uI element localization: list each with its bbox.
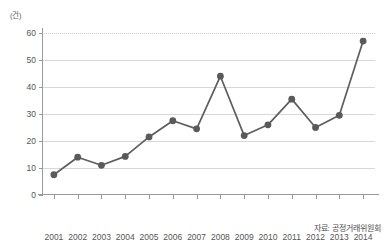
data-point-marker	[241, 132, 248, 139]
series-line	[54, 41, 363, 175]
y-tick-label: 10	[27, 163, 36, 173]
x-tick-mark	[363, 195, 364, 199]
y-axis-unit-label: (건)	[10, 9, 21, 20]
data-series-layer	[42, 33, 375, 195]
x-tick-label: 2002	[68, 232, 87, 242]
data-point-marker	[193, 125, 200, 132]
x-tick-mark	[78, 195, 79, 199]
y-tick-label: 60	[27, 28, 36, 38]
x-tick-label: 2010	[258, 232, 277, 242]
y-tick-label: 30	[27, 109, 36, 119]
data-point-marker	[146, 134, 153, 141]
data-point-marker	[169, 117, 176, 124]
data-point-marker	[98, 162, 105, 169]
x-tick-mark	[101, 195, 102, 199]
x-tick-label: 2014	[354, 232, 373, 242]
source-note: 자료: 공정거래위원회	[314, 222, 381, 233]
x-tick-mark	[220, 195, 221, 199]
x-tick-label: 2001	[44, 232, 63, 242]
x-tick-mark	[316, 195, 317, 199]
x-tick-mark	[292, 195, 293, 199]
y-tick-label: 0	[31, 190, 36, 200]
x-tick-label: 2011	[283, 232, 301, 242]
data-point-marker	[217, 73, 224, 80]
x-tick-label: 2012	[306, 232, 325, 242]
x-tick-label: 2004	[116, 232, 135, 242]
plot-area: 0102030405060 20012002200320042005200620…	[42, 33, 375, 195]
y-tick-label: 50	[27, 55, 36, 65]
data-point-marker	[336, 112, 343, 119]
data-point-marker	[312, 124, 319, 131]
x-tick-mark	[125, 195, 126, 199]
x-tick-label: 2005	[140, 232, 159, 242]
x-tick-label: 2009	[235, 232, 254, 242]
x-tick-mark	[149, 195, 150, 199]
x-tick-mark	[268, 195, 269, 199]
x-tick-mark	[244, 195, 245, 199]
x-tick-label: 2013	[330, 232, 349, 242]
data-point-marker	[360, 38, 367, 45]
line-chart: (건) 0102030405060 2001200220032004200520…	[0, 0, 391, 245]
x-tick-label: 2008	[211, 232, 230, 242]
x-tick-mark	[197, 195, 198, 199]
x-tick-label: 2006	[163, 232, 182, 242]
data-point-marker	[265, 121, 272, 128]
series-marker-group	[50, 38, 366, 178]
data-point-marker	[50, 171, 57, 178]
x-tick-label: 2007	[187, 232, 206, 242]
x-tick-mark	[339, 195, 340, 199]
y-tick-mark	[39, 195, 43, 196]
y-tick-label: 20	[27, 136, 36, 146]
x-tick-label: 2003	[92, 232, 111, 242]
data-point-marker	[288, 96, 295, 103]
data-point-marker	[74, 154, 81, 161]
x-tick-mark	[54, 195, 55, 199]
y-tick-label: 40	[27, 82, 36, 92]
x-tick-mark	[173, 195, 174, 199]
data-point-marker	[122, 153, 129, 160]
